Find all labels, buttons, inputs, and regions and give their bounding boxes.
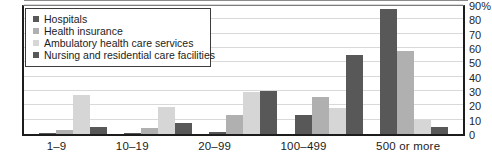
- legend-swatch-icon: [33, 16, 39, 22]
- chart-legend: HospitalsHealth insuranceAmbulatory heal…: [25, 8, 211, 67]
- y-axis-tick-label: 90%: [469, 1, 491, 12]
- gridline: [24, 4, 463, 5]
- x-axis-tick-label: 1–9: [47, 140, 67, 152]
- x-axis-tick-label: 500 or more: [376, 140, 440, 152]
- legend-item-label: Nursing and residential care facilities: [44, 50, 215, 61]
- x-axis-tick-label: 100–499: [281, 140, 327, 152]
- y-axis: 90%80706050403020100: [469, 0, 492, 141]
- bar: [175, 123, 192, 134]
- bar: [90, 127, 107, 134]
- bar: [158, 107, 175, 134]
- y-axis-tick-label: 60: [469, 44, 481, 55]
- bar: [141, 128, 158, 134]
- bar: [56, 130, 73, 134]
- legend-swatch-icon: [33, 52, 39, 58]
- legend-swatch-icon: [33, 28, 39, 34]
- bar-group: [209, 6, 277, 134]
- bar: [397, 51, 414, 134]
- x-axis-tick-label: 20–99: [198, 140, 231, 152]
- legend-item: Ambulatory health care services: [33, 38, 204, 50]
- legend-item: Nursing and residential care facilities: [33, 50, 204, 62]
- bar: [73, 95, 90, 134]
- bar: [312, 97, 329, 134]
- bar-group: [295, 6, 363, 134]
- y-axis-tick-label: 70: [469, 30, 481, 41]
- legend-item-label: Hospitals: [44, 14, 87, 25]
- page-top-rule: [24, 0, 468, 1]
- x-axis: 1–910–1920–99100–499500 or more: [22, 140, 465, 152]
- bar: [226, 115, 243, 134]
- y-axis-tick-label: 20: [469, 101, 481, 112]
- bar: [414, 120, 431, 134]
- bar: [39, 133, 56, 134]
- bar: [295, 115, 312, 134]
- y-axis-tick-label: 80: [469, 15, 481, 26]
- legend-item: Hospitals: [33, 14, 204, 26]
- bar: [431, 127, 448, 134]
- bar: [329, 108, 346, 134]
- bar: [346, 55, 363, 134]
- bar-group: [380, 6, 448, 134]
- bar: [380, 9, 397, 134]
- y-axis-tick-label: 40: [469, 73, 481, 84]
- legend-item: Health insurance: [33, 26, 204, 38]
- legend-item-label: Health insurance: [44, 26, 123, 37]
- y-axis-tick-label: 50: [469, 58, 481, 69]
- bar: [260, 91, 277, 134]
- y-axis-tick-label: 0: [469, 130, 475, 141]
- x-axis-tick-label: 10–19: [116, 140, 149, 152]
- legend-item-label: Ambulatory health care services: [44, 38, 193, 49]
- bar: [209, 132, 226, 134]
- bar: [243, 92, 260, 134]
- bar-chart-figure: 90%80706050403020100 1–910–1920–99100–49…: [0, 0, 492, 160]
- y-axis-tick-label: 30: [469, 87, 481, 98]
- y-axis-tick-label: 10: [469, 116, 481, 127]
- legend-swatch-icon: [33, 40, 39, 46]
- bar: [124, 133, 141, 134]
